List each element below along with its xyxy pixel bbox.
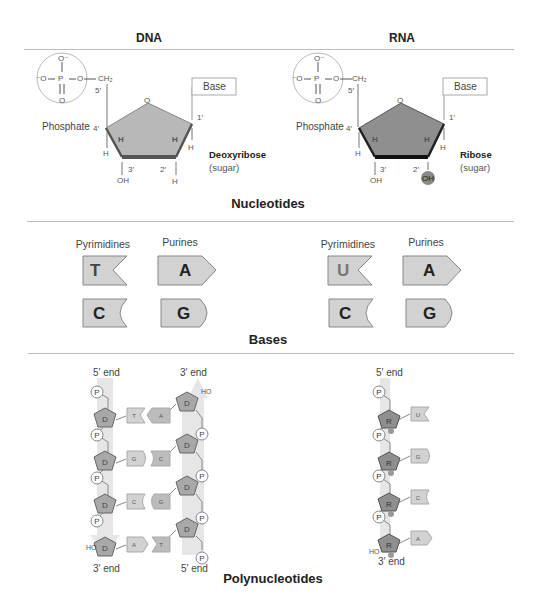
svg-text:G: G xyxy=(416,454,421,460)
rna-c3-label: 3′ xyxy=(380,165,386,174)
polynucleotides-diagram: PPPP PPPP DDDD DDDD TGCA ACGT HO HO PPPP… xyxy=(0,370,537,570)
rna-base-a: A xyxy=(423,261,435,281)
svg-text:G: G xyxy=(132,456,137,462)
base-t: T xyxy=(90,261,100,281)
rna-sugar-sub: (sugar) xyxy=(460,162,490,173)
rna-o-bottom: O xyxy=(315,96,321,105)
dna-ch2: CH₂ xyxy=(98,74,113,83)
svg-text:G: G xyxy=(159,499,164,505)
rna-p: P xyxy=(314,74,319,83)
svg-text:U: U xyxy=(416,412,420,418)
dna-oh3: OH xyxy=(117,176,129,185)
dna-o-bottom: O xyxy=(59,96,65,105)
svg-text:D: D xyxy=(102,501,108,510)
svg-text:D: D xyxy=(102,458,108,467)
nucleotides-divider xyxy=(27,221,514,222)
dna-phosphate-label: Phosphate xyxy=(42,121,90,132)
rna-h3: H xyxy=(372,135,378,144)
rna-nucleotide xyxy=(293,53,487,185)
rna-phosphate-label: Phosphate xyxy=(296,121,344,132)
dna-c1-label: 1′ xyxy=(197,113,203,122)
nucleotides-section-title: Nucleotides xyxy=(168,196,368,211)
svg-text:C: C xyxy=(159,456,164,462)
svg-text:D: D xyxy=(184,483,190,492)
rna-column-title: RNA xyxy=(342,31,462,45)
rna-c1-label: 1′ xyxy=(449,113,455,122)
rna-h2-top: H xyxy=(424,135,430,144)
svg-text:P: P xyxy=(199,430,204,439)
rna-o-top: O⁻ xyxy=(314,54,324,63)
bases-section-title: Bases xyxy=(168,332,368,347)
svg-text:A: A xyxy=(416,536,420,542)
svg-text:R: R xyxy=(386,500,392,509)
svg-text:P: P xyxy=(94,517,99,526)
dna-purines-label: Purines xyxy=(135,236,225,248)
svg-text:P: P xyxy=(376,388,381,397)
svg-text:P: P xyxy=(376,472,381,481)
rna-oh2: OH xyxy=(422,174,434,183)
dna-h3: H xyxy=(118,135,124,144)
dna-right-3-end: 3′ end xyxy=(180,367,207,378)
dna-c2-label: 2′ xyxy=(160,165,166,174)
dna-h4: H xyxy=(103,149,109,158)
svg-text:R: R xyxy=(386,417,392,426)
rna-c4-label: 4′ xyxy=(346,124,352,133)
base-g: G xyxy=(177,304,190,324)
dna-left-5-end: 5′ end xyxy=(93,367,120,378)
dna-sugar-name: Deoxyribose xyxy=(209,149,266,160)
rna-h4: H xyxy=(355,149,361,158)
dna-h2-top: H xyxy=(172,135,178,144)
bases-diagram xyxy=(0,250,537,340)
svg-text:HO: HO xyxy=(369,548,380,555)
dna-ring-oxygen: O xyxy=(144,96,150,105)
rna-h1: H xyxy=(440,143,446,152)
svg-text:R: R xyxy=(386,459,392,468)
svg-text:D: D xyxy=(184,399,190,408)
dna-o-right: O xyxy=(77,74,83,83)
svg-text:D: D xyxy=(184,441,190,450)
base-c: C xyxy=(93,304,105,324)
rna-ring-oxygen: O xyxy=(397,96,403,105)
dna-left-3-end: 3′ end xyxy=(93,563,120,574)
svg-text:P: P xyxy=(376,431,381,440)
svg-text:P: P xyxy=(199,472,204,481)
base-u: U xyxy=(337,261,349,281)
dna-column-title: DNA xyxy=(89,31,209,45)
svg-text:P: P xyxy=(94,431,99,440)
svg-text:T: T xyxy=(132,413,136,419)
svg-text:A: A xyxy=(159,413,163,419)
dna-p: P xyxy=(58,74,63,83)
rna-c5-label: 5′ xyxy=(348,86,354,95)
dna-o-left: ⁻O xyxy=(36,74,46,83)
rna-base-box: Base xyxy=(454,81,477,92)
svg-text:P: P xyxy=(199,554,204,563)
dna-base-box: Base xyxy=(203,81,226,92)
polynucleotides-section-title: Polynucleotides xyxy=(173,571,373,586)
rna-base-g: G xyxy=(423,304,436,324)
svg-text:C: C xyxy=(132,499,137,505)
dna-c3-label: 3′ xyxy=(128,165,134,174)
rna-sugar-name: Ribose xyxy=(460,149,492,160)
svg-text:R: R xyxy=(386,541,392,550)
svg-text:P: P xyxy=(94,388,99,397)
rna-3-end: 3′ end xyxy=(378,556,405,567)
svg-text:D: D xyxy=(184,525,190,534)
svg-text:T: T xyxy=(159,542,163,548)
dna-h2-bottom: H xyxy=(172,177,178,186)
rna-o-right: O xyxy=(333,74,339,83)
dna-nucleotide xyxy=(37,53,236,175)
svg-text:D: D xyxy=(102,415,108,424)
rna-o-left: ⁻O xyxy=(292,74,302,83)
rna-oh3: OH xyxy=(370,176,382,185)
svg-text:A: A xyxy=(132,542,136,548)
svg-text:P: P xyxy=(376,513,381,522)
dna-o-top: O⁻ xyxy=(58,54,68,63)
rna-pyrimidines-label: Pyrimidines xyxy=(303,238,393,250)
svg-text:D: D xyxy=(102,544,108,553)
dna-c5-label: 5′ xyxy=(95,86,101,95)
rna-ch2: CH₂ xyxy=(352,74,367,83)
dna-c4-label: 4′ xyxy=(93,124,99,133)
rna-c2-label: 2′ xyxy=(413,165,419,174)
svg-text:P: P xyxy=(199,514,204,523)
svg-text:HO: HO xyxy=(201,388,212,395)
